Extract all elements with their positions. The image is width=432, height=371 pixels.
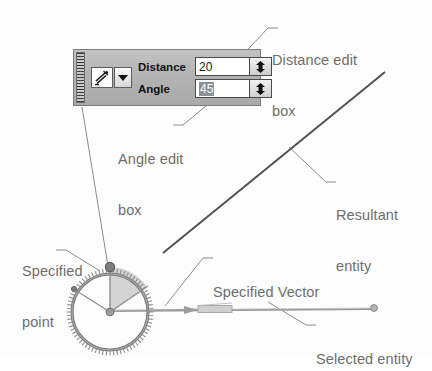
distance-value[interactable]: 20	[196, 58, 249, 75]
field-row-distance: Distance 20	[137, 57, 272, 77]
callout-distance-edit-box: Distance edit box	[272, 18, 357, 154]
chevron-down-icon	[118, 75, 128, 81]
distance-edit-box[interactable]: 20	[195, 57, 272, 76]
callout-line-1: Specified Vector	[213, 284, 319, 301]
angle-value-text: 45	[199, 82, 214, 96]
callout-line-1: Selected entity	[316, 351, 413, 368]
callout-selected-entity: Selected entity	[316, 317, 413, 371]
center-node	[106, 308, 114, 316]
angle-value[interactable]: 45	[196, 80, 249, 97]
specified-point-marker	[105, 262, 114, 271]
snap-vector-icon-button[interactable]	[91, 67, 113, 88]
angle-edit-box[interactable]: 45	[195, 79, 272, 98]
callout-specified-vector: Specified Vector	[213, 250, 319, 335]
callout-line-2: entity	[336, 258, 398, 275]
toolbar-body: Distance 20	[87, 50, 275, 105]
callout-line-1: Resultant	[336, 207, 398, 224]
callout-angle-edit-box: Angle edit box	[118, 117, 184, 253]
angle-label: Angle	[137, 83, 195, 95]
mode-group	[91, 67, 132, 88]
dynamic-input-toolbar[interactable]: Distance 20	[73, 49, 261, 106]
distance-value-text: 20	[199, 60, 212, 74]
callout-line-2: box	[118, 202, 184, 219]
callout-line-1: Specified	[22, 263, 83, 280]
field-row-angle: Angle 45	[137, 79, 272, 99]
spinner-up-down-icon	[254, 60, 267, 74]
callout-line-1: Angle edit	[118, 151, 184, 168]
callout-line-2: point	[22, 314, 83, 331]
callout-resultant-entity: Resultant entity	[336, 173, 398, 309]
distance-label: Distance	[137, 61, 195, 73]
distance-spinner[interactable]	[249, 58, 271, 75]
drag-grip[interactable]	[76, 52, 85, 103]
callout-line-1: Distance edit	[272, 52, 357, 69]
callout-line-2: box	[272, 103, 357, 120]
mode-dropdown-button[interactable]	[114, 67, 132, 88]
leader-toolbar-to-point	[82, 107, 108, 266]
spinner-up-down-icon	[254, 82, 267, 96]
callout-specified-point: Specified point	[22, 229, 83, 365]
leader-specified-vector	[165, 258, 203, 306]
input-fields: Distance 20	[137, 57, 272, 99]
angle-spinner[interactable]	[249, 80, 271, 97]
